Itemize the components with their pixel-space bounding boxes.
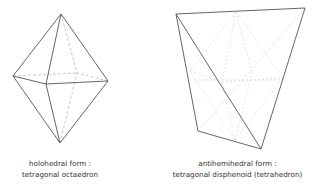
disphenoid-figure — [176, 8, 305, 149]
octahedron-caption-line1: holohedral form : — [0, 158, 120, 169]
disphenoid-caption-line1: antihemihedral form : — [160, 158, 315, 169]
disphenoid-caption: antihemihedral form : tetragonal disphen… — [160, 158, 315, 180]
octahedron-caption: holohedral form : tetragonal octaedron — [0, 158, 120, 180]
octahedron-figure — [13, 14, 108, 143]
octahedron-caption-line2: tetragonal octaedron — [0, 169, 120, 180]
disphenoid-caption-line2: tetragonal disphenoid (tetrahedron) — [160, 169, 315, 180]
